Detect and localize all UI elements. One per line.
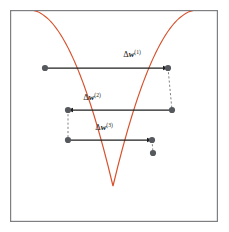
step-3-right-point xyxy=(149,137,155,143)
final-point xyxy=(150,150,156,156)
gradient-descent-diagram: Δw(1)Δw(2)Δw(3) xyxy=(0,0,229,232)
figure-root: Δw(1)Δw(2)Δw(3) xyxy=(0,0,229,232)
step-2-left-point xyxy=(65,107,71,113)
step-1-left-point xyxy=(42,65,48,71)
step-1-right-point xyxy=(165,65,171,71)
plot-frame xyxy=(11,11,218,222)
step-3-left-point xyxy=(65,137,71,143)
step-2-right-point xyxy=(169,107,175,113)
